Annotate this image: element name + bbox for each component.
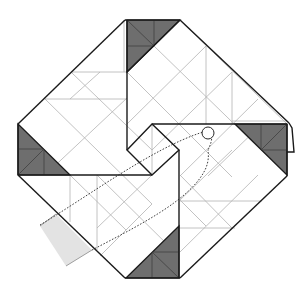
shaded-corner-bottom <box>126 226 179 278</box>
shaded-corner-left <box>18 124 70 175</box>
grip-point-circle <box>202 127 214 139</box>
shaded-corner-right <box>235 124 287 175</box>
origami-diagram <box>0 0 308 290</box>
